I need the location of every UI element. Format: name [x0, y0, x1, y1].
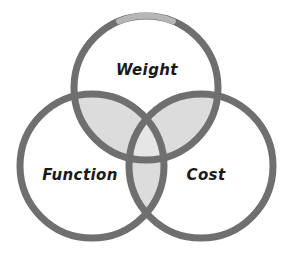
circle-label-cost: Cost: [186, 166, 225, 184]
circle-label-function: Function: [42, 166, 118, 184]
venn-diagram-canvas: Weight Function Cost: [0, 0, 291, 255]
venn-diagram: Weight Function Cost: [0, 0, 291, 255]
circle-label-weight: Weight: [116, 61, 178, 79]
